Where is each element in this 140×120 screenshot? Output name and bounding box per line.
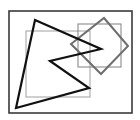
rotated-square	[71, 18, 128, 74]
black-zigzag-polygon	[16, 20, 101, 108]
diagram-svg	[0, 0, 140, 120]
diagram-canvas	[0, 0, 140, 120]
